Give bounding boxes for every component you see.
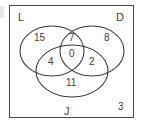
region-value-outside-all: 3: [118, 102, 124, 112]
region-value-J-only: 11: [66, 78, 76, 88]
set-label-L: L: [18, 12, 24, 23]
region-value-L-and-D: 7: [69, 33, 75, 43]
region-value-L-and-D-and-J: 0: [69, 49, 75, 59]
region-value-D-and-J: 2: [89, 57, 95, 67]
region-value-L-and-J: 4: [48, 57, 54, 67]
set-label-J: J: [64, 106, 70, 117]
set-label-D: D: [116, 12, 124, 23]
region-value-L-only: 15: [34, 33, 45, 43]
venn-diagram-figure: L D J 15 7 8 4 0 2 11 3: [0, 0, 142, 127]
region-value-D-only: 8: [104, 33, 110, 43]
